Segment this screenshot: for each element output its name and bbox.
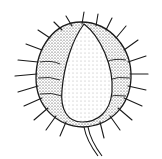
stem xyxy=(84,127,102,156)
illustration-canvas xyxy=(0,0,162,159)
seed-pod-illustration xyxy=(0,0,162,159)
